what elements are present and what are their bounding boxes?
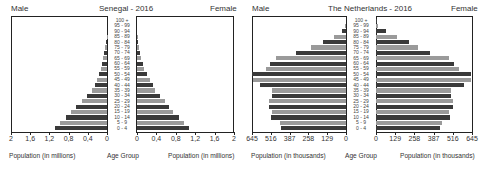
x-tick-label: 258: [303, 135, 315, 142]
age-group-tick-label: 0 - 4: [347, 126, 375, 131]
male-label: Male: [11, 4, 28, 13]
female-bar: [137, 45, 139, 49]
x-tick-label: 0,4: [152, 135, 162, 142]
x-tick-label: 516: [447, 135, 459, 142]
female-bar: [137, 121, 184, 125]
female-bar: [376, 115, 450, 119]
female-bar: [376, 35, 397, 39]
female-bar: [137, 78, 150, 82]
female-bar: [376, 121, 442, 125]
female-bar: [376, 45, 418, 49]
x-tick-label: 1,6: [25, 135, 35, 142]
female-bar: [376, 88, 451, 92]
netherlands-pyramid: Male The Netherlands - 2016 Female Popul…: [240, 0, 480, 174]
male-bar: [87, 94, 107, 98]
x-tick-label: 129: [389, 135, 401, 142]
x-tick-label: 0,8: [64, 135, 74, 142]
x-tick-label: 129: [321, 135, 333, 142]
x-tick-label: 516: [265, 135, 277, 142]
female-bar: [376, 99, 453, 103]
male-bar: [92, 88, 107, 92]
female-x-axis-label: Population (in millions): [168, 152, 234, 159]
female-bar: [376, 94, 451, 98]
male-bar: [269, 99, 346, 103]
female-bar: [137, 40, 138, 44]
male-bar: [334, 35, 346, 39]
male-bar: [102, 62, 107, 66]
x-tick-label: 0: [105, 135, 109, 142]
male-bar: [60, 121, 107, 125]
male-bar: [269, 105, 346, 109]
x-tick-label: 645: [466, 135, 478, 142]
x-tick-label: 0: [135, 135, 139, 142]
female-bar: [137, 115, 179, 119]
x-tick-label: 2: [9, 135, 13, 142]
female-label: Female: [451, 4, 478, 13]
x-tick-label: 0: [374, 135, 378, 142]
male-bar: [82, 99, 107, 103]
female-label: Female: [210, 4, 237, 13]
male-x-axis: [252, 132, 347, 133]
male-bar: [71, 110, 107, 114]
male-bar: [270, 62, 346, 66]
chart-title: Senegal - 2016: [99, 4, 153, 13]
male-bar: [104, 51, 107, 55]
male-bar: [311, 45, 346, 49]
female-bar: [137, 62, 143, 66]
male-bar: [280, 121, 346, 125]
male-bar: [342, 29, 346, 33]
chart-title: The Netherlands - 2016: [328, 4, 412, 13]
x-tick-label: 0,4: [83, 135, 93, 142]
female-bar: [137, 94, 160, 98]
age-group-tick-label: 0 - 4: [108, 126, 136, 131]
age-group-label: Age Group: [107, 152, 139, 159]
female-bar: [137, 110, 173, 114]
male-x-axis-label: Population (in thousands): [251, 152, 326, 159]
male-bar: [272, 88, 346, 92]
female-bar: [376, 40, 409, 44]
x-tick-label: 0: [344, 135, 348, 142]
male-bar: [252, 72, 346, 76]
female-bar: [376, 51, 430, 55]
female-bar: [376, 126, 440, 130]
female-bar: [137, 72, 147, 76]
female-bar: [376, 78, 471, 82]
female-bar: [376, 56, 449, 60]
male-x-axis: [11, 132, 108, 133]
male-bar: [105, 45, 107, 49]
female-bar: [376, 83, 464, 87]
male-label: Male: [252, 4, 269, 13]
male-bar: [345, 24, 346, 28]
male-bar: [103, 56, 107, 60]
female-bar: [137, 88, 155, 92]
male-bar: [55, 126, 107, 130]
female-bar: [376, 29, 386, 33]
male-bar: [101, 67, 107, 71]
female-bar: [137, 83, 153, 87]
male-bar: [323, 40, 346, 44]
male-bar: [266, 67, 346, 71]
female-bar: [137, 105, 169, 109]
male-bar: [95, 83, 107, 87]
male-bar: [272, 110, 346, 114]
x-tick-label: 2: [232, 135, 236, 142]
male-bar: [66, 115, 107, 119]
male-bar: [76, 105, 107, 109]
male-bar: [99, 72, 107, 76]
female-bar: [376, 67, 459, 71]
x-tick-label: 0,8: [171, 135, 181, 142]
female-bar: [376, 24, 378, 28]
female-x-axis: [376, 132, 473, 133]
age-group-label: Age Group: [345, 152, 377, 159]
male-bar: [281, 126, 346, 130]
female-bar: [137, 67, 144, 71]
female-bar: [137, 99, 165, 103]
female-bar: [137, 56, 141, 60]
male-bar: [253, 78, 346, 82]
x-tick-label: 387: [284, 135, 296, 142]
female-bar: [376, 72, 471, 76]
male-bar: [272, 94, 346, 98]
female-bar: [137, 51, 140, 55]
x-tick-label: 258: [409, 135, 421, 142]
x-tick-label: 387: [428, 135, 440, 142]
